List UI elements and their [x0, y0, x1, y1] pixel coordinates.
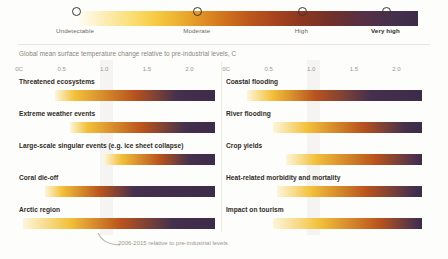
ember-bar[interactable] — [70, 122, 215, 133]
ember-row-label: Extreme weather events — [19, 110, 95, 117]
axis-tick-label: 1.0 — [100, 66, 108, 72]
ember-row[interactable]: Coral die-off — [19, 174, 215, 206]
ember-row[interactable]: Coastal flooding — [226, 78, 422, 110]
axis-tick-label: 2.0 — [392, 66, 400, 72]
annotation-text: 2006-2015 relative to pre-industrial lev… — [118, 240, 228, 246]
legend-tick-marker — [72, 7, 81, 16]
axis-tick-label: 0.5 — [264, 66, 272, 72]
axis-tick-label: 0C — [15, 66, 23, 72]
ember-row[interactable]: River flooding — [226, 110, 422, 142]
ember-bar[interactable] — [273, 122, 422, 133]
ember-row-label: Crop yields — [226, 142, 262, 149]
ember-diagram: UndetectableModerateHighVery high Global… — [0, 0, 448, 259]
ember-row-label: River flooding — [226, 110, 271, 117]
legend-gradient-bar — [75, 11, 418, 26]
axis-tick-label: 1.0 — [307, 66, 315, 72]
ember-row-label: Coral die-off — [19, 174, 58, 181]
axis-tick-label: 2.0 — [185, 66, 193, 72]
axis-tick-label: 0C — [222, 66, 230, 72]
ember-row[interactable]: Extreme weather events — [19, 110, 215, 142]
ember-bar[interactable] — [104, 154, 215, 165]
left-column: 0C0.51.01.52.0Threatened ecosystemsExtre… — [19, 66, 215, 238]
ember-row-label: Large-scale singular events (e.g. ice sh… — [19, 142, 183, 149]
ember-bar[interactable] — [45, 186, 215, 197]
axis-tick-label: 1.5 — [350, 66, 358, 72]
ember-bar[interactable] — [286, 154, 422, 165]
ember-row-label: Impact on tourism — [226, 206, 284, 213]
temperature-axis: 0C0.51.01.52.0 — [19, 66, 215, 78]
ember-row[interactable]: Crop yields — [226, 142, 422, 174]
ember-bar[interactable] — [55, 90, 215, 101]
ember-bar[interactable] — [277, 186, 422, 197]
ember-row[interactable]: Heat-related morbidity and mortality — [226, 174, 422, 206]
legend-tick-marker — [382, 7, 391, 16]
temperature-axis: 0C0.51.01.52.0 — [226, 66, 422, 78]
ember-row-label: Arctic region — [19, 206, 60, 213]
legend-divider — [18, 44, 430, 45]
legend-tick-marker — [298, 7, 307, 16]
legend-label: Very high — [371, 27, 400, 34]
axis-tick-label: 0.5 — [57, 66, 65, 72]
risk-legend: UndetectableModerateHighVery high — [0, 0, 448, 42]
ember-row-label: Heat-related morbidity and mortality — [226, 174, 340, 181]
legend-label: Moderate — [183, 27, 210, 34]
ember-row-label: Coastal flooding — [226, 78, 278, 85]
ember-row-label: Threatened ecosystems — [19, 78, 95, 85]
ember-row[interactable]: Impact on tourism — [226, 206, 422, 238]
axis-caption: Global mean surface temperature change r… — [19, 50, 236, 57]
legend-label: Undetectable — [56, 27, 94, 34]
ember-row[interactable]: Large-scale singular events (e.g. ice sh… — [19, 142, 215, 174]
ember-bar[interactable] — [247, 90, 422, 101]
axis-tick-label: 1.5 — [143, 66, 151, 72]
ember-row[interactable]: Threatened ecosystems — [19, 78, 215, 110]
ember-bar[interactable] — [273, 218, 422, 229]
right-column: 0C0.51.01.52.0Coastal floodingRiver floo… — [226, 66, 422, 238]
legend-label: High — [295, 27, 308, 34]
ember-bar[interactable] — [23, 218, 215, 229]
